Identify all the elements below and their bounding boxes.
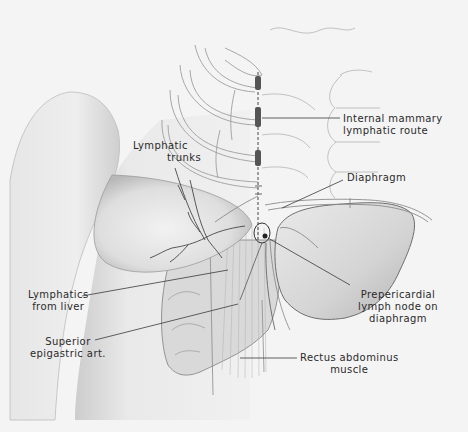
- label-line: Internal mammary: [343, 113, 443, 125]
- label-line: Lymphatic: [133, 140, 201, 152]
- label-line: Lymphatics: [28, 289, 89, 301]
- label-line: lymph node on: [358, 301, 438, 313]
- label-line: Prepericardial: [358, 289, 438, 301]
- label-line: Rectus abdominus: [300, 352, 399, 364]
- label-line: Diaphragm: [347, 172, 406, 184]
- label-line: trunks: [133, 152, 201, 164]
- label-diaphragm: Diaphragm: [347, 172, 406, 184]
- label-rectus-abdominus: Rectus abdominus muscle: [300, 352, 399, 376]
- label-line: lymphatic route: [343, 125, 443, 137]
- label-line: muscle: [300, 364, 399, 376]
- label-internal-mammary: Internal mammary lymphatic route: [343, 113, 443, 137]
- label-lymphatics-from-liver: Lymphatics from liver: [28, 289, 89, 313]
- label-line: from liver: [28, 301, 89, 313]
- label-prepericardial: Prepericardial lymph node on diaphragm: [358, 289, 438, 325]
- label-superior-epigastric: Superior epigastric art.: [30, 336, 106, 360]
- anatomy-figure: Internal mammary lymphatic route Lymphat…: [0, 0, 468, 432]
- label-lymphatic-trunks: Lymphatic trunks: [133, 140, 201, 164]
- label-line: epigastric art.: [30, 348, 106, 360]
- internal-mammary-route: [255, 72, 262, 240]
- label-line: diaphragm: [358, 313, 438, 325]
- label-line: Superior: [30, 336, 106, 348]
